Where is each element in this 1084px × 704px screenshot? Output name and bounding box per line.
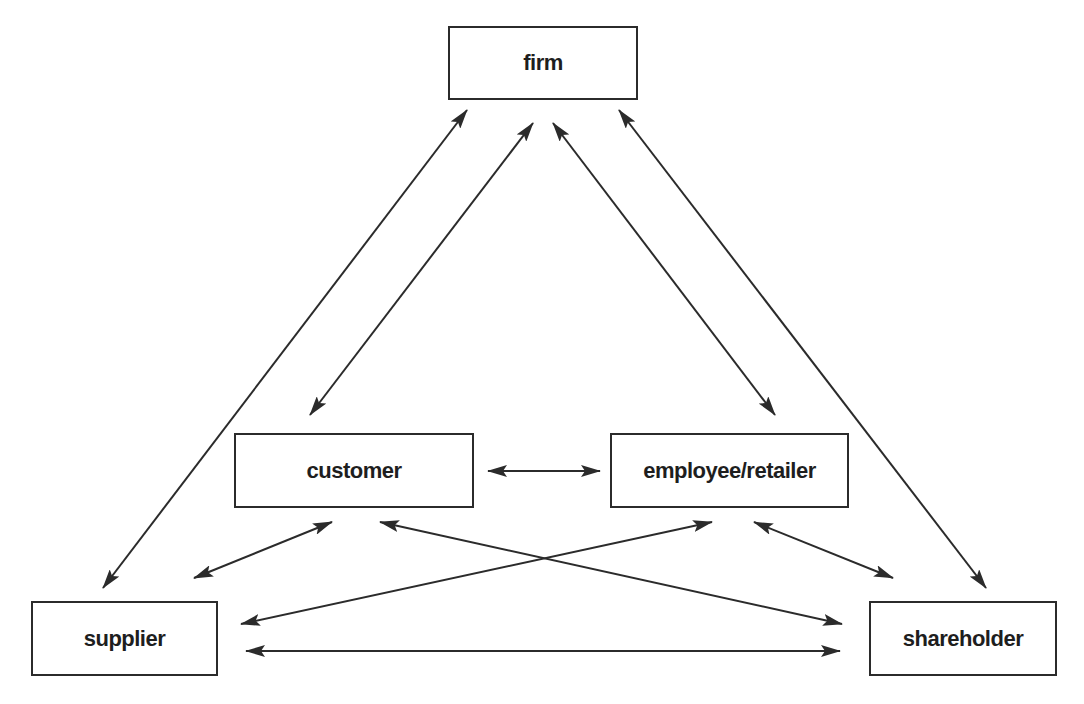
node-supplier: supplier: [31, 601, 218, 676]
relationship-arrows: [0, 0, 1084, 704]
arrow-customer-shareholder: [380, 522, 842, 624]
arrow-employee-supplier: [241, 522, 712, 624]
node-customer: customer: [234, 433, 474, 508]
arrow-firm-shareholder: [619, 110, 986, 588]
node-shareholder: shareholder: [869, 601, 1057, 676]
node-employee-retailer-label: employee/retailer: [643, 458, 815, 484]
stakeholder-diagram: firm customer employee/retailer supplier…: [0, 0, 1084, 704]
node-firm-label: firm: [523, 50, 563, 76]
arrow-firm-supplier: [103, 110, 467, 588]
arrow-firm-customer: [310, 123, 533, 415]
node-supplier-label: supplier: [84, 626, 166, 652]
node-firm: firm: [448, 26, 638, 100]
node-shareholder-label: shareholder: [903, 626, 1023, 652]
arrow-customer-supplier: [194, 522, 332, 578]
node-customer-label: customer: [306, 458, 401, 484]
arrow-employee-shareholder: [754, 522, 893, 578]
node-employee-retailer: employee/retailer: [610, 433, 849, 508]
